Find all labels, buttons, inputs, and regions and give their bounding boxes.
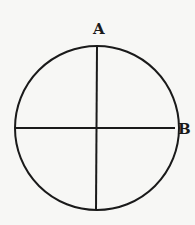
diagram-canvas: A B — [0, 0, 195, 225]
circle-diagram: A B — [0, 0, 195, 225]
vertical-axis-line — [96, 46, 97, 210]
label-a: A — [92, 20, 105, 38]
label-b: B — [178, 120, 191, 138]
